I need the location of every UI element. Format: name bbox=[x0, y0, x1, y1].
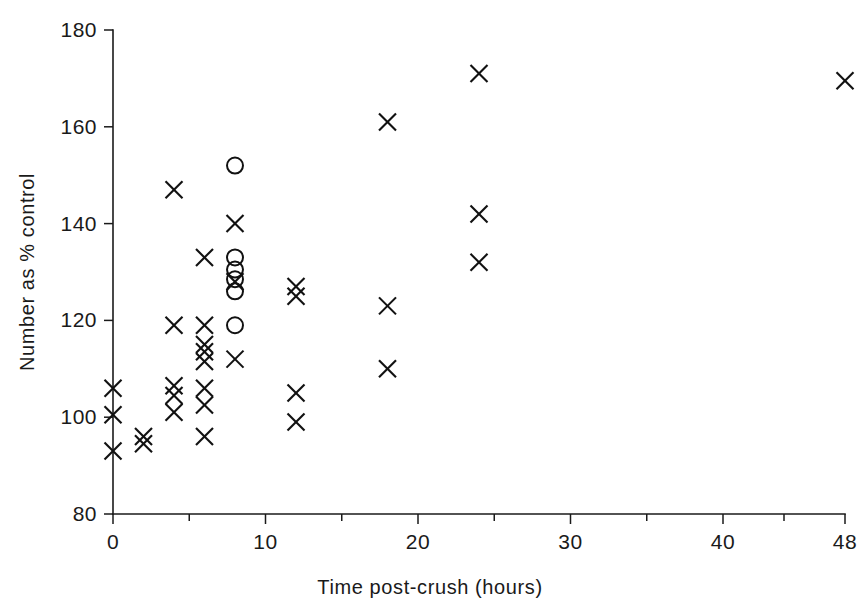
data-point-x bbox=[288, 278, 305, 295]
data-point-x bbox=[288, 288, 305, 305]
plot-canvas: 8010012014016018001020304048 Time post-c… bbox=[0, 0, 859, 612]
data-point-x bbox=[837, 72, 854, 89]
data-markers-group bbox=[105, 65, 854, 460]
data-point-circle bbox=[227, 262, 243, 278]
data-point-x bbox=[166, 181, 183, 198]
data-point-x bbox=[288, 414, 305, 431]
data-point-x bbox=[196, 380, 213, 397]
data-point-circle bbox=[227, 158, 243, 174]
x-tick-label-0: 0 bbox=[107, 530, 119, 553]
x-tick-label-48: 48 bbox=[833, 530, 857, 553]
data-point-x bbox=[166, 317, 183, 334]
axes-group bbox=[113, 30, 845, 514]
data-point-x bbox=[196, 353, 213, 370]
data-point-x bbox=[379, 297, 396, 314]
data-point-x bbox=[196, 317, 213, 334]
data-point-x bbox=[196, 397, 213, 414]
x-tick-label-20: 20 bbox=[406, 530, 430, 553]
y-axis-title: Number as % control bbox=[16, 173, 38, 371]
tick-labels-group: 8010012014016018001020304048 bbox=[60, 18, 857, 553]
data-point-x bbox=[379, 113, 396, 130]
data-point-x bbox=[166, 377, 183, 394]
data-point-x bbox=[196, 428, 213, 445]
y-tick-label-180: 180 bbox=[60, 18, 97, 41]
y-tick-label-160: 160 bbox=[60, 115, 97, 138]
ticks-group bbox=[104, 30, 845, 524]
data-point-x bbox=[166, 404, 183, 421]
data-point-x bbox=[288, 385, 305, 402]
y-tick-label-100: 100 bbox=[60, 405, 97, 428]
data-point-circle bbox=[227, 317, 243, 333]
data-point-x bbox=[196, 249, 213, 266]
scatter-plot-figure: 8010012014016018001020304048 Time post-c… bbox=[0, 0, 859, 612]
data-point-x bbox=[471, 205, 488, 222]
x-axis-title: Time post-crush (hours) bbox=[317, 576, 542, 598]
data-point-x bbox=[166, 387, 183, 404]
data-point-x bbox=[471, 254, 488, 271]
y-tick-label-80: 80 bbox=[73, 502, 97, 525]
data-point-x bbox=[471, 65, 488, 82]
x-tick-label-10: 10 bbox=[253, 530, 277, 553]
data-point-x bbox=[227, 215, 244, 232]
y-tick-label-120: 120 bbox=[60, 308, 97, 331]
x-tick-label-40: 40 bbox=[711, 530, 735, 553]
x-tick-label-30: 30 bbox=[558, 530, 582, 553]
data-point-circle bbox=[227, 283, 243, 299]
y-tick-label-140: 140 bbox=[60, 212, 97, 235]
data-point-x bbox=[379, 360, 396, 377]
data-point-x bbox=[227, 351, 244, 368]
